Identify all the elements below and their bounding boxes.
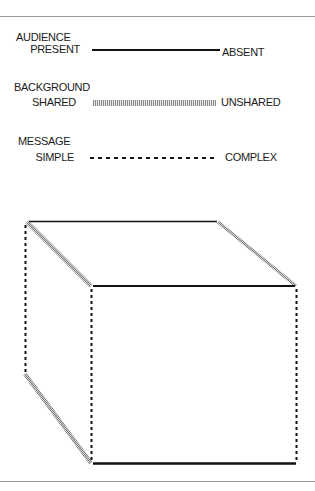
edge-top-right-depth [218, 222, 296, 286]
cube-diagram [0, 0, 315, 491]
cube-hatched-edges [25, 222, 296, 463]
edge-top-left-depth [27, 222, 91, 286]
edge-bottom-left-depth [25, 374, 91, 463]
cube-solid-edges [29, 222, 296, 464]
bottom-rule [0, 481, 315, 482]
